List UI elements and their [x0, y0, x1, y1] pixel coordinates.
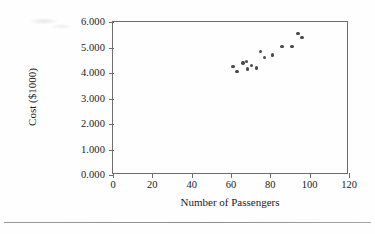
data-point	[290, 45, 293, 48]
y-tick-mark	[109, 150, 114, 151]
x-tick-label: 100	[302, 180, 318, 191]
x-tick-label: 0	[110, 180, 115, 191]
x-tick-mark	[231, 173, 232, 178]
y-tick-mark	[109, 48, 114, 49]
x-tick-mark	[310, 173, 311, 178]
x-tick-mark	[152, 173, 153, 178]
data-point	[280, 45, 283, 48]
data-point	[246, 67, 249, 70]
y-tick-mark	[109, 124, 114, 125]
data-point	[300, 36, 303, 39]
page-divider-rule	[4, 222, 371, 223]
data-point	[245, 60, 248, 63]
scan-smudge-artifact	[30, 14, 76, 32]
x-tick-label: 120	[341, 180, 357, 191]
x-tick-label: 80	[265, 180, 276, 191]
x-axis-title: Number of Passengers	[181, 196, 280, 208]
x-tick-label: 40	[186, 180, 197, 191]
y-tick-mark	[109, 22, 114, 23]
y-tick-label: 0.000	[81, 170, 105, 181]
data-point	[271, 53, 274, 56]
data-point	[259, 50, 262, 53]
data-point	[241, 61, 244, 64]
y-tick-label: 3.000	[81, 93, 105, 104]
data-point	[231, 65, 234, 68]
y-axis-title: Cost ($1000)	[26, 68, 38, 126]
data-point	[255, 66, 258, 69]
data-point	[235, 70, 238, 73]
data-point	[250, 64, 253, 67]
y-tick-label: 1.000	[81, 144, 105, 155]
x-tick-mark	[113, 173, 114, 178]
data-point	[296, 32, 299, 35]
y-tick-label: 4.000	[81, 68, 105, 79]
y-tick-mark	[109, 99, 114, 100]
x-tick-label: 60	[226, 180, 237, 191]
x-tick-mark	[192, 173, 193, 178]
data-point	[263, 56, 266, 59]
x-tick-label: 20	[147, 180, 158, 191]
scatter-plot-figure: 0.0001.0002.0003.0004.0005.0006.000 0204…	[0, 0, 375, 234]
y-tick-label: 5.000	[81, 42, 105, 53]
x-tick-mark	[349, 173, 350, 178]
y-tick-label: 2.000	[81, 119, 105, 130]
y-tick-label: 6.000	[81, 17, 105, 28]
x-tick-mark	[270, 173, 271, 178]
y-tick-mark	[109, 73, 114, 74]
plot-area: 0.0001.0002.0003.0004.0005.0006.000 0204…	[112, 21, 348, 174]
